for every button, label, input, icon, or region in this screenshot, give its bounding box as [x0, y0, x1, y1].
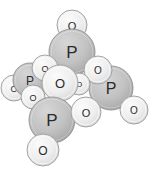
- atom-o-bottom-mid: O: [71, 97, 101, 127]
- molecule-canvas: OPOPOOPOOOPOOO: [0, 0, 159, 172]
- atom-sphere-o: [27, 134, 59, 166]
- atom-o-right-outer: O: [120, 96, 148, 124]
- atom-sphere-o: [42, 65, 78, 101]
- atom-o-center: O: [42, 65, 78, 101]
- atom-o-bottom: O: [27, 134, 59, 166]
- atom-sphere-o: [120, 96, 148, 124]
- molecule-figure: OPOPOOPOOOPOOO: [0, 0, 159, 172]
- atom-sphere-o: [71, 97, 101, 127]
